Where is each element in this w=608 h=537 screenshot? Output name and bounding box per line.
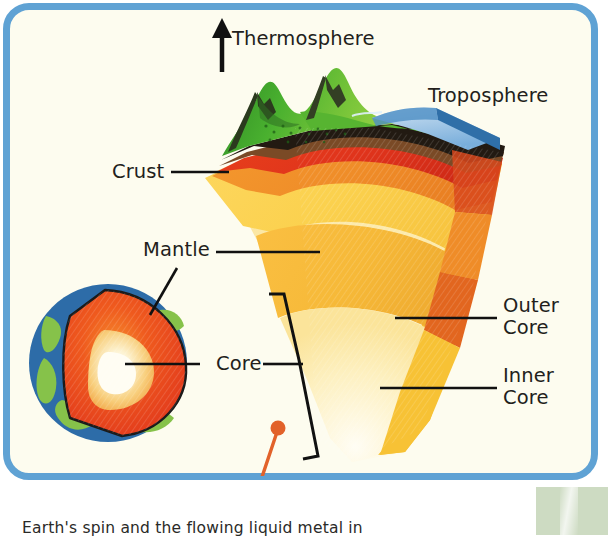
label-outer-core: Outer Core <box>503 295 559 340</box>
label-troposphere: Troposphere <box>428 85 548 107</box>
pin-marker-icon <box>248 421 286 520</box>
label-inner-core-line2: Core <box>503 387 554 409</box>
label-mantle: Mantle <box>143 239 210 261</box>
label-outer-core-line2: Core <box>503 317 559 339</box>
label-inner-core: Inner Core <box>503 365 554 410</box>
up-arrow-icon <box>212 18 232 72</box>
label-outer-core-line1: Outer <box>503 295 559 317</box>
caption-text: Earth's spin and the flowing liquid meta… <box>22 519 542 537</box>
label-thermosphere: Thermosphere <box>232 28 375 50</box>
label-inner-core-line1: Inner <box>503 365 554 387</box>
label-core: Core <box>216 353 262 375</box>
earth-wedge-cutaway <box>200 68 520 470</box>
label-crust: Crust <box>112 161 164 183</box>
